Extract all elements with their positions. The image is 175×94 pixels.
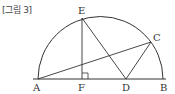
segment-dc [126,42,151,79]
label-a: A [32,82,41,93]
right-angle-mark [82,73,88,79]
segment-ac [38,42,151,79]
label-e: E [78,5,85,16]
label-d: D [122,82,130,93]
geometry-diagram: E C A F D B [0,0,175,94]
label-f: F [78,82,85,93]
segment-ed [82,18,126,79]
semicircle-arc [38,17,163,79]
label-b: B [160,82,167,93]
label-c: C [153,32,161,43]
